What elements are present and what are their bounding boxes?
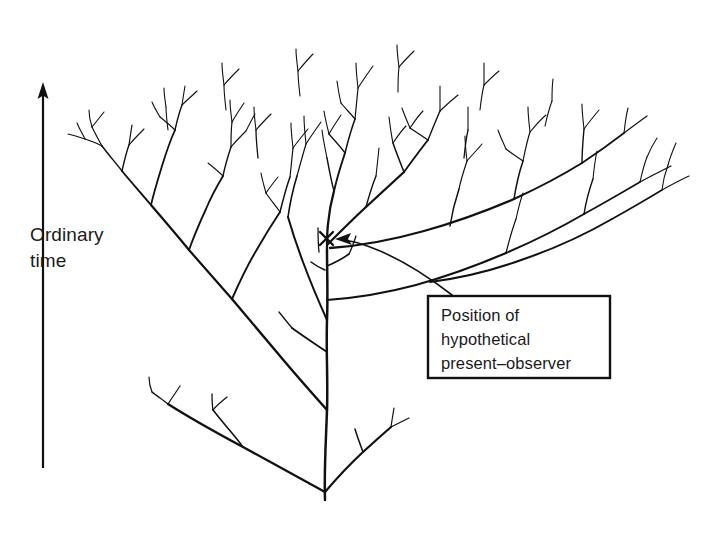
- tree-twig: [224, 85, 226, 110]
- curved-arrow-icon: [345, 240, 452, 295]
- tree-branch: [514, 163, 582, 199]
- tree-branch: [582, 129, 584, 163]
- tree-twig: [528, 107, 530, 132]
- tree-twig: [389, 117, 393, 143]
- tree-branch: [391, 408, 394, 427]
- tree-branch: [280, 177, 290, 212]
- tree-twig: [231, 131, 246, 147]
- tree-twig: [498, 130, 506, 149]
- tree-branch: [152, 392, 168, 404]
- tree-twig: [329, 115, 341, 134]
- tree-twig: [92, 112, 104, 127]
- tree-twig: [356, 63, 358, 88]
- tree-twig: [322, 130, 327, 158]
- tree-twig: [624, 108, 628, 133]
- tree-twig: [337, 81, 341, 103]
- tree-twig: [297, 144, 306, 176]
- tree-twig: [279, 312, 292, 328]
- tree-twig: [459, 161, 467, 189]
- ordinary-time-axis: [38, 82, 49, 468]
- tree-branch: [584, 182, 640, 214]
- tree-branch: [327, 158, 334, 191]
- tree-twig: [324, 111, 329, 134]
- tree-twig: [410, 128, 428, 140]
- tree-twig: [523, 132, 530, 161]
- tree-twig: [341, 103, 355, 119]
- tree-branch: [213, 410, 243, 447]
- tree-twig: [358, 66, 373, 88]
- tree-branch: [212, 394, 213, 410]
- tree-branch: [151, 205, 232, 299]
- tree-graphic: [68, 45, 689, 500]
- tree-twig: [296, 49, 298, 71]
- tree-branch: [393, 143, 404, 172]
- tree-twig: [164, 88, 166, 107]
- tree-branch: [122, 171, 151, 205]
- tree-branch: [232, 212, 280, 299]
- tree-branch: [232, 299, 327, 410]
- tree-twig: [266, 177, 278, 193]
- tree-twig: [222, 63, 224, 85]
- tree-twig: [552, 79, 553, 101]
- tree-twig: [484, 71, 499, 85]
- tree-twig: [624, 116, 647, 133]
- ordinary-time-label: Ordinary time: [30, 222, 160, 274]
- tree-branch: [151, 130, 175, 205]
- tree-twig: [256, 114, 271, 130]
- tree-twig: [230, 100, 232, 122]
- tree-twig: [254, 107, 256, 130]
- tree-trunk: [325, 250, 328, 500]
- tree-twig: [89, 110, 92, 127]
- tree-twig: [393, 126, 406, 143]
- tree-twig: [208, 163, 223, 176]
- tree-twig: [545, 101, 552, 126]
- tree-twig: [402, 108, 410, 128]
- tree-branch: [584, 179, 593, 214]
- tree-twig: [152, 102, 160, 117]
- tree-branch: [102, 146, 122, 171]
- tree-branch: [506, 214, 584, 253]
- tree-twig: [291, 123, 293, 148]
- tree-branch: [311, 262, 325, 270]
- tree-twig: [440, 95, 458, 111]
- tree-twig: [397, 45, 399, 67]
- branching-tree-figure: Ordinary time Position of hypothetical p…: [0, 0, 712, 537]
- tree-branch: [292, 328, 327, 352]
- tree-branch: [149, 377, 152, 392]
- tree-branch: [288, 176, 297, 217]
- tree-branch: [168, 386, 180, 404]
- tree-branch: [345, 119, 355, 153]
- tree-branch: [327, 253, 506, 300]
- tree-twig: [647, 138, 657, 157]
- tree-twig: [506, 219, 516, 253]
- tree-twig: [376, 148, 379, 176]
- tree-branch: [223, 147, 231, 176]
- tree-twig: [290, 148, 293, 177]
- tree-branch: [514, 161, 523, 199]
- tree-twig: [304, 116, 306, 144]
- callout-pointer: [335, 233, 452, 295]
- tree-branch: [391, 418, 409, 427]
- callout-label: Position of hypothetical present–observe…: [441, 303, 613, 375]
- tree-branch: [327, 254, 349, 266]
- tree-twig: [467, 144, 482, 161]
- tree-twig: [298, 54, 313, 71]
- tree-branch: [334, 153, 345, 191]
- tree-twig: [224, 69, 239, 85]
- tree-twig: [506, 149, 523, 161]
- tree-twig: [410, 111, 423, 128]
- tree-twig: [398, 67, 399, 92]
- tree-branch: [328, 172, 404, 244]
- tree-twig: [355, 88, 358, 119]
- tree-twig: [256, 130, 258, 158]
- tree-twig: [266, 193, 280, 212]
- tree-twig: [246, 114, 255, 131]
- tree-twig: [662, 176, 689, 190]
- tree-twig: [399, 51, 414, 67]
- tree-twig: [668, 143, 676, 165]
- tree-twig: [166, 107, 168, 130]
- tree-branch: [355, 429, 363, 452]
- tree-branch: [582, 133, 624, 163]
- tree-twig: [261, 173, 266, 193]
- tree-branch: [189, 176, 223, 250]
